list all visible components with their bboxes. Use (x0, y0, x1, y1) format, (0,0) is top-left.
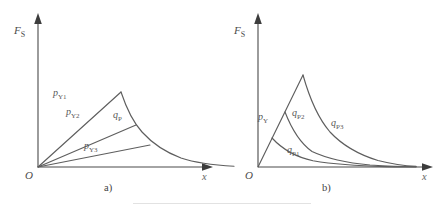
curve-q-p (121, 92, 234, 166)
panel-a-y-axis-arrow (34, 13, 42, 24)
panel-a-label-q-p: qP (113, 110, 122, 120)
panel-b-origin-label: O (245, 170, 253, 181)
panel-a-y-axis-label: FS (14, 25, 25, 36)
curve-p-y1 (38, 92, 121, 167)
footer-divider (133, 203, 311, 204)
panel-b-label-p-y: pY (258, 112, 268, 122)
panel-a-x-axis-label: x (202, 172, 207, 183)
panel-b-label-q-p3: qP3 (331, 118, 343, 128)
panel-a-label-p-y1: pY1 (53, 88, 67, 98)
figure-container: FS O x pY1 pY2 pY3 qP a) FS O x pY qP1 q… (0, 0, 445, 212)
panel-a-label-p-y2: pY2 (66, 107, 80, 117)
panel-b-label-q-p1: qP1 (287, 145, 299, 155)
panel-b-caption: b) (322, 183, 331, 194)
panel-a-origin-label: O (25, 170, 33, 181)
panel-b-y-axis-arrow (254, 13, 262, 24)
curve-q-p3 (303, 75, 416, 166)
panel-b-x-axis-arrow (422, 163, 433, 171)
panel-a-label-p-y3: pY3 (84, 141, 98, 151)
panel-a-caption: a) (104, 183, 112, 194)
panel-a-curves (38, 92, 234, 167)
panel-b-x-axis-label: x (422, 172, 427, 183)
panel-b-y-axis-label: FS (234, 25, 245, 36)
panel-b-axes (254, 13, 433, 171)
panel-b-label-q-p2: qP2 (292, 108, 304, 118)
